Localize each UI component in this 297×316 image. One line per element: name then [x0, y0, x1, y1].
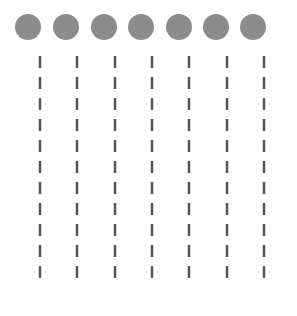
- dash-segment: [226, 266, 229, 278]
- dash-segment: [39, 245, 42, 257]
- dash-segment: [188, 161, 191, 173]
- dashed-line-1: [39, 56, 42, 278]
- dash-segment: [76, 140, 79, 152]
- dots-and-dashed-lines-diagram: [0, 0, 297, 316]
- circle-7: [240, 14, 266, 40]
- dash-segment: [114, 245, 117, 257]
- dash-segment: [114, 161, 117, 173]
- dash-segment: [76, 56, 79, 68]
- dash-segment: [114, 266, 117, 278]
- dash-segment: [188, 266, 191, 278]
- dashed-line-group: [39, 56, 266, 278]
- dash-segment: [188, 140, 191, 152]
- dash-segment: [151, 56, 154, 68]
- dashed-line-2: [76, 56, 79, 278]
- circle-6: [203, 14, 229, 40]
- dashed-line-7: [263, 56, 266, 278]
- dash-segment: [226, 119, 229, 131]
- dash-segment: [39, 56, 42, 68]
- dash-segment: [151, 140, 154, 152]
- dash-segment: [226, 182, 229, 194]
- dash-segment: [263, 224, 266, 236]
- dash-segment: [188, 224, 191, 236]
- circle-4: [128, 14, 154, 40]
- dash-segment: [226, 56, 229, 68]
- dash-segment: [39, 98, 42, 110]
- dash-segment: [263, 266, 266, 278]
- dash-segment: [151, 161, 154, 173]
- dash-segment: [76, 203, 79, 215]
- dash-segment: [76, 245, 79, 257]
- dash-segment: [263, 77, 266, 89]
- dash-segment: [188, 77, 191, 89]
- dash-segment: [39, 119, 42, 131]
- dash-segment: [263, 119, 266, 131]
- circle-3: [91, 14, 117, 40]
- dash-segment: [114, 140, 117, 152]
- dash-segment: [188, 119, 191, 131]
- dash-segment: [114, 203, 117, 215]
- dash-segment: [188, 245, 191, 257]
- dash-segment: [263, 56, 266, 68]
- circle-1: [15, 14, 41, 40]
- dash-segment: [114, 182, 117, 194]
- dash-segment: [39, 140, 42, 152]
- dashed-line-3: [114, 56, 117, 278]
- dash-segment: [226, 224, 229, 236]
- dash-segment: [226, 203, 229, 215]
- dashed-line-4: [151, 56, 154, 278]
- dash-segment: [151, 245, 154, 257]
- dash-segment: [151, 77, 154, 89]
- dash-segment: [114, 56, 117, 68]
- dash-segment: [114, 98, 117, 110]
- dash-segment: [76, 77, 79, 89]
- dash-segment: [39, 266, 42, 278]
- dash-segment: [151, 266, 154, 278]
- dash-segment: [151, 203, 154, 215]
- dash-segment: [39, 182, 42, 194]
- dash-segment: [114, 224, 117, 236]
- dash-segment: [39, 161, 42, 173]
- dashed-line-6: [226, 56, 229, 278]
- dash-segment: [263, 98, 266, 110]
- dash-segment: [188, 56, 191, 68]
- dash-segment: [188, 182, 191, 194]
- dash-segment: [151, 98, 154, 110]
- dash-segment: [39, 77, 42, 89]
- dash-segment: [226, 77, 229, 89]
- dash-segment: [151, 224, 154, 236]
- dash-segment: [76, 182, 79, 194]
- dash-segment: [76, 161, 79, 173]
- dash-segment: [226, 161, 229, 173]
- dash-segment: [263, 140, 266, 152]
- dash-segment: [263, 245, 266, 257]
- dash-segment: [76, 98, 79, 110]
- dash-segment: [76, 224, 79, 236]
- dash-segment: [151, 119, 154, 131]
- dash-segment: [263, 182, 266, 194]
- dash-segment: [226, 140, 229, 152]
- dash-segment: [76, 119, 79, 131]
- circle-row: [15, 14, 266, 40]
- dash-segment: [114, 119, 117, 131]
- dash-segment: [39, 224, 42, 236]
- dash-segment: [114, 77, 117, 89]
- dash-segment: [39, 203, 42, 215]
- dash-segment: [226, 98, 229, 110]
- dashed-line-5: [188, 56, 191, 278]
- dash-segment: [76, 266, 79, 278]
- circle-5: [166, 14, 192, 40]
- dash-segment: [188, 203, 191, 215]
- dash-segment: [151, 182, 154, 194]
- dash-segment: [263, 203, 266, 215]
- dash-segment: [226, 245, 229, 257]
- dash-segment: [188, 98, 191, 110]
- circle-2: [53, 14, 79, 40]
- dash-segment: [263, 161, 266, 173]
